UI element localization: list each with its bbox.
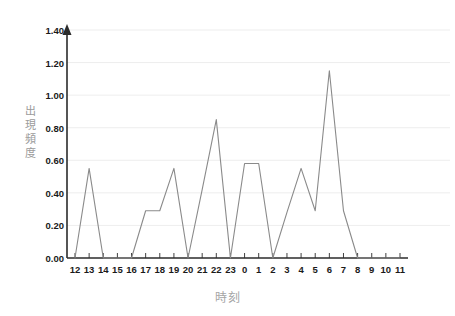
x-tick-label: 5 [313, 264, 318, 275]
x-tick-label: 4 [298, 264, 303, 275]
x-tick-label: 16 [126, 264, 137, 275]
x-tick-label: 6 [327, 264, 332, 275]
x-axis-title-text: 時刻 [215, 291, 241, 305]
x-tick-label: 8 [355, 264, 360, 275]
x-tick-label: 23 [225, 264, 236, 275]
x-tick-label: 2 [270, 264, 275, 275]
x-tick-label: 12 [70, 264, 81, 275]
x-tick-label: 18 [154, 264, 165, 275]
x-tick-label: 1 [256, 264, 261, 275]
x-tick-label: 7 [341, 264, 346, 275]
x-tick-label: 15 [112, 264, 123, 275]
x-tick-label: 0 [242, 264, 247, 275]
x-tick-label: 17 [140, 264, 151, 275]
x-tick-label: 21 [197, 264, 208, 275]
x-tick-label: 11 [395, 264, 405, 275]
chart-container: 出現頻度 0.000.200.400.600.801.001.201.40 12… [0, 0, 455, 316]
x-axis-tick-labels: 12131415161718192021222301234567891011 [0, 0, 455, 316]
x-axis-title: 時刻 [0, 288, 455, 305]
x-tick-label: 9 [369, 264, 374, 275]
x-tick-label: 20 [183, 264, 194, 275]
x-tick-label: 13 [84, 264, 95, 275]
x-tick-label: 22 [211, 264, 222, 275]
x-tick-label: 3 [284, 264, 289, 275]
x-tick-label: 10 [381, 264, 392, 275]
x-tick-label: 19 [169, 264, 180, 275]
x-tick-label: 14 [98, 264, 109, 275]
